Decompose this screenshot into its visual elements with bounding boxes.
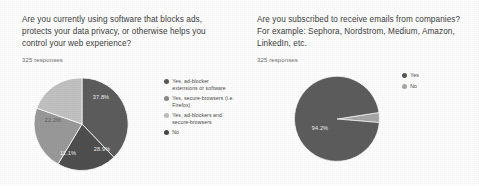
legend-emails: Yes No — [402, 72, 472, 94]
question-title-adblock: Are you currently using software that bl… — [22, 14, 218, 51]
legend-color-swatch-icon — [164, 130, 169, 135]
pie-slice-label-adblock-1: 28.9% — [94, 146, 110, 152]
legend-label-adblock-3: No — [172, 129, 236, 136]
pie-chart-adblock-svg: 37.8% 28.9% 11.1% 22.2% — [30, 72, 134, 176]
pie-chart-emails: 94.2% — [294, 76, 380, 162]
chart-area-emails: 94.2% Yes No — [239, 68, 479, 186]
legend-item-adblock-1[interactable]: Yes, secure-browsers (i.e. Firefox) — [164, 95, 236, 109]
legend-color-swatch-icon — [402, 84, 407, 89]
pie-slice-label-adblock-3: 22.2% — [45, 117, 61, 123]
chart-area-adblock: 37.8% 28.9% 11.1% 22.2% Yes, ad-blocker … — [0, 68, 239, 186]
question-title-emails: Are you subscribed to receive emails fro… — [257, 14, 469, 51]
legend-item-adblock-0[interactable]: Yes, ad-blocker extensions or software — [164, 78, 236, 92]
pie-slice-label-adblock-2: 11.1% — [60, 150, 76, 156]
legend-label-adblock-2: Yes, ad-blockers and secure-browsers — [172, 112, 236, 126]
question-panel-adblock: Are you currently using software that bl… — [0, 0, 239, 186]
legend-item-adblock-2[interactable]: Yes, ad-blockers and secure-browsers — [164, 112, 236, 126]
response-count-adblock: 325 responses — [22, 56, 63, 64]
legend-label-emails-0: Yes — [410, 72, 472, 79]
pie-chart-adblock: 37.8% 28.9% 11.1% 22.2% — [30, 72, 134, 176]
legend-color-swatch-icon — [402, 73, 407, 78]
legend-color-swatch-icon — [164, 79, 169, 84]
legend-label-adblock-0: Yes, ad-blocker extensions or software — [172, 78, 236, 92]
legend-color-swatch-icon — [164, 96, 169, 101]
pie-slice-label-adblock-0: 37.8% — [93, 94, 109, 100]
legend-item-emails-0[interactable]: Yes — [402, 72, 472, 79]
survey-results-page: Are you currently using software that bl… — [0, 0, 479, 186]
legend-item-emails-1[interactable]: No — [402, 83, 472, 90]
question-panel-emails: Are you subscribed to receive emails fro… — [239, 0, 479, 186]
pie-chart-emails-svg: 94.2% — [294, 76, 380, 162]
legend-label-adblock-1: Yes, secure-browsers (i.e. Firefox) — [172, 95, 236, 109]
pie-slice-label-emails-0: 94.2% — [312, 125, 328, 131]
legend-color-swatch-icon — [164, 113, 169, 118]
legend-adblock: Yes, ad-blocker extensions or software Y… — [164, 78, 236, 139]
legend-item-adblock-3[interactable]: No — [164, 129, 236, 136]
legend-label-emails-1: No — [410, 83, 472, 90]
response-count-emails: 325 responses — [257, 56, 298, 64]
